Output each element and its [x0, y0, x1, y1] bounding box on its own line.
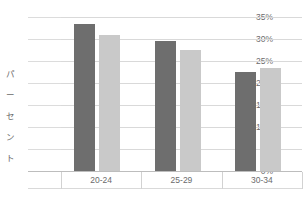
y-axis-title-char: パ — [6, 69, 15, 79]
bar — [99, 35, 120, 171]
bar — [180, 50, 201, 171]
bar-chart: パ ー セ ン ト 0%5%10%15%20%25%30%35% 20-2425… — [0, 0, 307, 204]
y-axis-tick-rule — [28, 149, 61, 150]
category-separator — [302, 172, 303, 189]
y-axis-title-char: ト — [6, 153, 15, 163]
y-axis-tick-rule — [28, 39, 61, 40]
y-axis-title: パ ー セ ン ト — [2, 58, 18, 163]
y-axis-title-char: ン — [6, 132, 15, 142]
bar — [155, 41, 176, 171]
y-axis-tick-rule — [28, 83, 61, 84]
plot-area — [61, 17, 302, 171]
bar — [235, 72, 256, 171]
category-separator — [141, 172, 142, 189]
y-axis-tick-rule — [28, 17, 61, 18]
gridline — [61, 17, 302, 18]
y-axis-tick-rules — [28, 17, 61, 171]
gridline — [61, 39, 302, 40]
y-axis-title-char: ー — [6, 90, 15, 100]
category-separator — [61, 172, 62, 189]
y-axis-tick-rule — [28, 105, 61, 106]
bar — [74, 24, 95, 171]
category-label: 20-24 — [61, 172, 141, 189]
y-axis-title-char: セ — [6, 111, 15, 121]
bar — [260, 68, 281, 171]
category-separator — [222, 172, 223, 189]
y-axis-tick-rule — [28, 61, 61, 62]
y-axis-tick-rule — [28, 127, 61, 128]
category-label: 30-34 — [222, 172, 302, 189]
category-axis: 20-2425-2930-34 — [28, 171, 302, 189]
category-label: 25-29 — [141, 172, 221, 189]
